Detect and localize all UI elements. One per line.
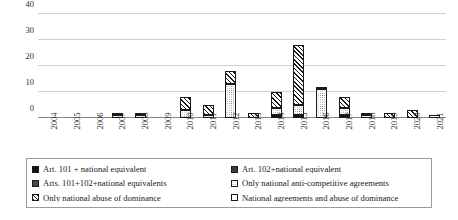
- legend-swatch-icon: [32, 180, 39, 187]
- x-axis-tick-label: 2014: [276, 113, 286, 130]
- legend-swatch-icon: [231, 166, 238, 173]
- x-axis-tick-label: 2016: [321, 113, 331, 130]
- x-axis-tick-label: 2021: [435, 113, 445, 130]
- bar-segment: [271, 92, 282, 108]
- x-label-slot: 2016: [310, 120, 333, 154]
- x-axis-tick-label: 2009: [163, 113, 173, 130]
- x-label-slot: 2006: [83, 120, 106, 154]
- x-axis-tick-label: 2020: [412, 113, 422, 130]
- x-label-slot: 2019: [378, 120, 401, 154]
- bar-slot: [401, 14, 424, 118]
- bar-slot: [219, 14, 242, 118]
- bar-slot: [310, 14, 333, 118]
- chart-container: 010203040 200420052006200720082009201020…: [0, 0, 458, 220]
- bar-slot: [174, 14, 197, 118]
- x-label-slot: 2015: [287, 120, 310, 154]
- bar-slot: [38, 14, 61, 118]
- legend-swatch-icon: [231, 194, 238, 201]
- legend-label: National agreements and abuse of dominan…: [242, 194, 398, 203]
- legend-item[interactable]: Art. 102+national equivalent: [231, 162, 426, 176]
- x-label-slot: 2007: [106, 120, 129, 154]
- x-label-slot: 2014: [265, 120, 288, 154]
- x-axis-tick-label: 2006: [95, 113, 105, 130]
- bar-slot: [242, 14, 265, 118]
- x-axis-labels: 2004200520062007200820092010201120122013…: [38, 120, 446, 154]
- x-label-slot: 2013: [242, 120, 265, 154]
- bar-segment: [339, 97, 350, 107]
- bar-segment: [180, 97, 191, 110]
- bar-slot: [106, 14, 129, 118]
- x-label-slot: 2018: [355, 120, 378, 154]
- bar-slot: [378, 14, 401, 118]
- x-axis-tick-label: 2012: [231, 113, 241, 130]
- legend-label: Art. 101 + national equivalent: [43, 165, 146, 174]
- bar-slot: [423, 14, 446, 118]
- legend-item[interactable]: Only national abuse of dominance: [32, 191, 227, 205]
- y-axis-tick-label: 10: [26, 77, 35, 87]
- x-axis-tick-label: 2015: [299, 113, 309, 130]
- x-axis-tick-label: 2005: [72, 113, 82, 130]
- bar-slot: [265, 14, 288, 118]
- x-label-slot: 2012: [219, 120, 242, 154]
- x-axis-tick-label: 2019: [389, 113, 399, 130]
- legend-item[interactable]: Only national anti-competitive agreement…: [231, 176, 426, 190]
- legend-label: Arts. 101+102+national equivalents: [43, 179, 167, 188]
- bar-slot: [151, 14, 174, 118]
- x-axis-tick-label: 2017: [344, 113, 354, 130]
- x-axis-tick-label: 2007: [117, 113, 127, 130]
- bar-slot: [83, 14, 106, 118]
- x-axis-tick-label: 2011: [208, 113, 218, 130]
- bar-segment: [225, 71, 236, 84]
- bar-series-group: [38, 14, 446, 118]
- legend-item[interactable]: National agreements and abuse of dominan…: [231, 191, 426, 205]
- legend-label: Only national anti-competitive agreement…: [242, 179, 389, 188]
- bar-slot: [129, 14, 152, 118]
- x-label-slot: 2005: [61, 120, 84, 154]
- y-axis-tick-label: 40: [26, 0, 35, 9]
- x-axis-tick-label: 2010: [185, 113, 195, 130]
- y-axis-tick-label: 20: [26, 51, 35, 61]
- bar-slot: [333, 14, 356, 118]
- legend-label: Art. 102+national equivalent: [242, 165, 341, 174]
- bar-slot: [61, 14, 84, 118]
- bar-slot: [355, 14, 378, 118]
- x-label-slot: 2009: [151, 120, 174, 154]
- x-label-slot: 2021: [423, 120, 446, 154]
- x-label-slot: 2020: [401, 120, 424, 154]
- bar-slot: [197, 14, 220, 118]
- x-axis-tick-label: 2018: [367, 113, 377, 130]
- x-label-slot: 2008: [129, 120, 152, 154]
- legend-swatch-icon: [32, 194, 39, 201]
- stacked-bar[interactable]: [225, 71, 236, 118]
- bar-segment: [293, 45, 304, 105]
- y-axis-tick-label: 0: [30, 103, 34, 113]
- x-axis-tick-label: 2013: [253, 113, 263, 130]
- legend-item[interactable]: Art. 101 + national equivalent: [32, 162, 227, 176]
- plot-area: 010203040: [38, 14, 446, 118]
- legend-swatch-icon: [231, 180, 238, 187]
- legend-label: Only national abuse of dominance: [43, 194, 161, 203]
- chart-legend: Art. 101 + national equivalentArt. 102+n…: [26, 158, 432, 208]
- x-label-slot: 2017: [333, 120, 356, 154]
- x-axis-tick-label: 2004: [49, 113, 59, 130]
- y-axis-tick-label: 30: [26, 25, 35, 35]
- legend-swatch-icon: [32, 166, 39, 173]
- x-axis-tick-label: 2008: [140, 113, 150, 130]
- x-label-slot: 2011: [197, 120, 220, 154]
- bar-slot: [287, 14, 310, 118]
- x-label-slot: 2004: [38, 120, 61, 154]
- stacked-bar[interactable]: [293, 45, 304, 118]
- x-label-slot: 2010: [174, 120, 197, 154]
- legend-item[interactable]: Arts. 101+102+national equivalents: [32, 176, 227, 190]
